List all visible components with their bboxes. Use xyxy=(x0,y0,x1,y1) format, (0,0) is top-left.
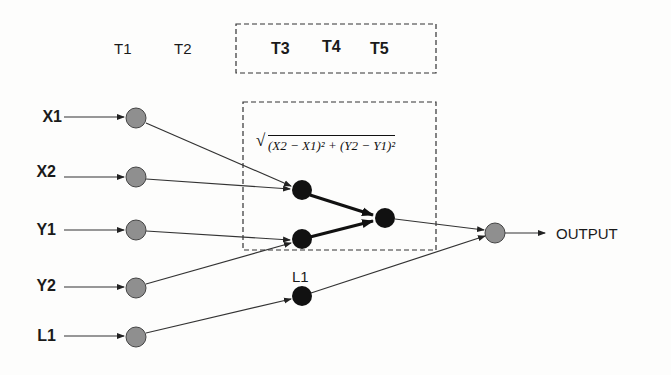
input-label-x2: X2 xyxy=(6,164,56,180)
input-label-y2: Y2 xyxy=(6,278,56,294)
input-node-l1 xyxy=(126,327,146,347)
edge-combine-to-output xyxy=(395,219,484,230)
distance-computation-dashed-box xyxy=(243,102,436,250)
time-label-t1: T1 xyxy=(114,41,132,56)
edge-l1-to-hidden-l1 xyxy=(146,299,291,333)
hidden-node-l1 xyxy=(292,286,312,306)
input-node-y1 xyxy=(126,220,146,240)
edge-hidden-a-to-combine xyxy=(310,195,373,215)
input-node-x1 xyxy=(126,108,146,128)
input-node-y2 xyxy=(126,278,146,298)
edge-x2-to-hidden-a xyxy=(146,179,290,189)
hidden-node-b xyxy=(292,229,312,249)
edge-x1-to-hidden-a xyxy=(146,123,291,186)
input-node-x2 xyxy=(126,167,146,187)
edge-hidden-b-to-combine xyxy=(310,221,373,237)
hidden-label-l1: L1 xyxy=(292,269,309,284)
input-label-x1: X1 xyxy=(12,109,62,125)
input-label-y1: Y1 xyxy=(6,222,56,238)
hidden-node-combine xyxy=(375,208,395,228)
time-label-t4: T4 xyxy=(322,39,341,55)
edge-y2-to-hidden-b xyxy=(146,243,291,284)
input-label-l1: L1 xyxy=(6,328,56,344)
edge-hidden-l1-to-output xyxy=(311,236,485,293)
edge-y1-to-hidden-b xyxy=(146,231,290,240)
diagram-graphics xyxy=(0,0,671,375)
formula-expression: (X2 − X1)² + (Y2 − Y1)² xyxy=(268,135,395,154)
output-label: OUTPUT xyxy=(556,226,618,241)
hidden-node-a xyxy=(292,180,312,200)
time-label-t3: T3 xyxy=(271,41,290,57)
neural-network-diagram: T1 T2 T3 T4 T5 X1 X2 Y1 Y2 L1 √ (X2 − X1… xyxy=(0,0,671,375)
time-label-t5: T5 xyxy=(370,41,389,57)
square-root-symbol: √ xyxy=(256,131,265,151)
time-label-t2: T2 xyxy=(174,41,192,56)
output-node xyxy=(485,223,505,243)
